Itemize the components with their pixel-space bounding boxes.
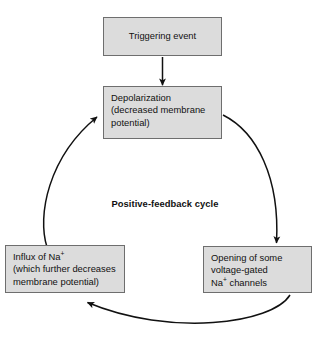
node-channels-line-3-tail: channels (227, 277, 267, 288)
node-voltage-gated-channels: Opening of some voltage-gated Na+ channe… (203, 246, 312, 293)
node-depolarization-line-3: potential) (111, 117, 221, 129)
arrow-channels-to-influx (88, 295, 291, 323)
node-channels-line-3-text: Na (211, 277, 223, 288)
node-depolarization-line-2: (decreased membrane (111, 104, 221, 116)
arrow-influx-to-depolarization (44, 117, 97, 247)
node-influx-line-1-text: Influx of Na (13, 251, 60, 262)
node-depolarization-line-1: Depolarization (111, 92, 221, 104)
node-influx-line-3: membrane potential) (13, 276, 124, 288)
cycle-label: Positive-feedback cycle (0, 198, 330, 209)
node-channels-line-1: Opening of some (211, 252, 311, 264)
node-depolarization: Depolarization (decreased membrane poten… (103, 86, 222, 139)
node-triggering-event: Triggering event (103, 17, 222, 56)
node-influx-of-sodium: Influx of Na+ (which further decreases m… (5, 245, 125, 293)
node-influx-line-1: Influx of Na+ (13, 251, 124, 263)
arrow-depolarization-to-channels (223, 115, 277, 243)
node-channels-line-3: Na+ channels (211, 277, 311, 289)
sodium-ion-superscript: + (60, 250, 64, 257)
positive-feedback-cycle-diagram: Triggering event Depolarization (decreas… (0, 0, 330, 341)
node-influx-line-2: (which further decreases (13, 263, 124, 275)
node-triggering-event-line-1: Triggering event (129, 30, 196, 42)
